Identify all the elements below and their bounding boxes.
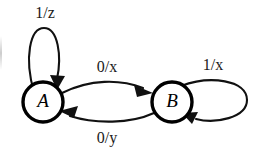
state-node-b[interactable]: B: [152, 82, 192, 122]
transition-a-to-b: [62, 82, 153, 97]
fsm-canvas: A B 1/z 0/x 1/x 0/y: [0, 0, 258, 155]
a-to-b-path: [62, 82, 143, 93]
state-node-a[interactable]: A: [23, 82, 63, 122]
state-machine-diagram: A B 1/z 0/x 1/x 0/y: [0, 0, 258, 155]
state-a-label: A: [35, 90, 49, 111]
a-to-b-arrowhead: [134, 85, 153, 97]
b-to-a-path: [70, 113, 154, 122]
transition-label-a-self: 1/z: [35, 4, 55, 21]
transition-label-b-self: 1/x: [203, 56, 223, 73]
state-b-label: B: [166, 90, 178, 111]
transition-label-a-to-b: 0/x: [97, 58, 117, 75]
transition-label-b-to-a: 0/y: [97, 129, 117, 147]
transition-b-to-a: [59, 106, 154, 122]
